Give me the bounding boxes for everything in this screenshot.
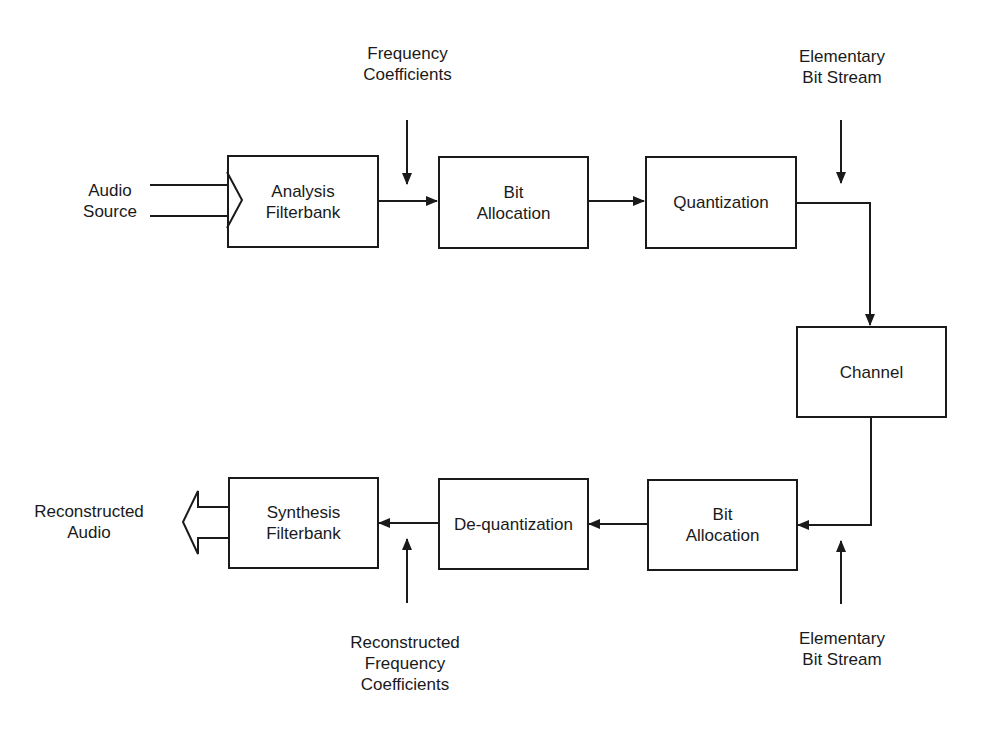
reconstructed-audio-label: Reconstructed Audio [14,501,164,543]
elementary-bitstream-bottom-label: Elementary Bit Stream [782,628,902,670]
channel-block: Channel [796,326,947,418]
arrow-channel-to-bitalloc-dec [798,417,871,525]
reconstructed-audio-wide-arrow [183,491,228,554]
audio-source-label: Audio Source [72,180,148,222]
quantization-block: Quantization [645,156,797,249]
bit-allocation-decoder-block: Bit Allocation [647,479,798,571]
audio-coder-diagram: Audio Source Frequency Coefficients Elem… [0,0,996,741]
elementary-bitstream-top-label: Elementary Bit Stream [782,46,902,88]
dequantization-block: De-quantization [438,478,589,570]
reconstructed-frequency-coefficients-label: Reconstructed Frequency Coefficients [330,632,480,695]
bit-allocation-encoder-block: Bit Allocation [438,156,589,249]
frequency-coefficients-label: Frequency Coefficients [345,43,470,85]
synthesis-filterbank-block: Synthesis Filterbank [228,477,379,569]
arrow-quant-to-channel [796,203,870,325]
analysis-filterbank-block: Analysis Filterbank [227,155,379,248]
